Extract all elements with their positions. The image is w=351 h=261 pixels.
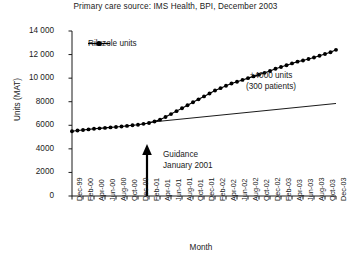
data-point — [175, 109, 179, 113]
data-point — [98, 126, 102, 130]
data-point — [241, 78, 245, 82]
data-point — [235, 80, 239, 84]
data-point — [285, 63, 289, 67]
data-point — [180, 106, 184, 110]
data-point — [87, 127, 91, 131]
annotation-units-delta-line1: +4000 units — [246, 71, 296, 82]
data-point — [142, 122, 146, 126]
data-point — [186, 103, 190, 107]
data-point — [125, 124, 129, 128]
annotation-guidance-line1: Guidance — [163, 150, 213, 161]
data-point — [279, 65, 283, 69]
data-point — [224, 84, 228, 88]
data-point — [114, 125, 118, 129]
data-point — [120, 125, 124, 129]
data-point — [81, 128, 85, 132]
data-point — [76, 129, 80, 133]
annotation-guidance: Guidance January 2001 — [163, 150, 213, 171]
axes — [69, 31, 337, 200]
data-point — [219, 86, 223, 90]
data-point — [92, 127, 96, 131]
guidance-arrow-icon — [142, 144, 152, 196]
data-point — [109, 125, 113, 129]
chart-figure: Primary care source: IMS Health, BPI, De… — [0, 0, 351, 261]
data-point — [230, 82, 234, 86]
annotation-units-delta: +4000 units (300 patients) — [246, 71, 296, 92]
data-point — [296, 60, 300, 64]
data-point — [153, 120, 157, 124]
x-axis-label: Month — [72, 243, 330, 252]
data-point — [202, 94, 206, 98]
data-point — [307, 57, 311, 61]
data-point — [301, 59, 305, 63]
data-point — [147, 121, 151, 125]
legend-swatch-riluzole-units — [88, 39, 110, 48]
data-point — [334, 48, 338, 52]
annotation-units-delta-line2: (300 patients) — [246, 82, 296, 93]
riluzole-units-series — [70, 48, 338, 133]
data-point — [131, 123, 135, 127]
data-point — [213, 89, 217, 93]
plot-canvas — [0, 0, 351, 261]
data-point — [164, 115, 168, 119]
data-point — [208, 92, 212, 96]
data-point — [158, 118, 162, 122]
data-point — [290, 61, 294, 65]
data-point — [323, 52, 327, 56]
data-point — [318, 54, 322, 58]
data-point — [103, 126, 107, 130]
data-point — [70, 129, 74, 133]
annotation-guidance-line2: January 2001 — [163, 161, 213, 172]
data-point — [136, 123, 140, 127]
legend: Riluzole units — [88, 39, 137, 48]
data-point — [329, 50, 333, 54]
data-point — [312, 56, 316, 60]
data-point — [169, 112, 173, 116]
data-point — [197, 97, 201, 101]
data-point — [191, 100, 195, 104]
